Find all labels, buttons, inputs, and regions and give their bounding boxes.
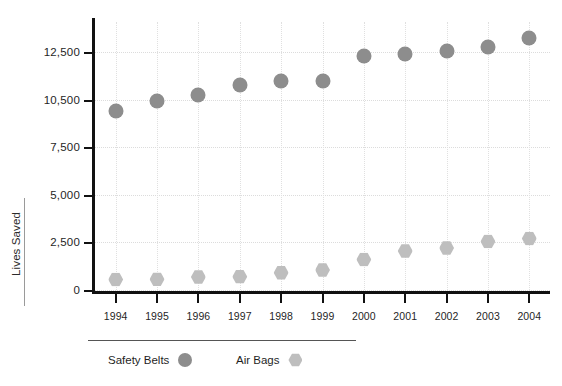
legend-item-label: Air Bags xyxy=(236,354,279,366)
x-axis-tick-labels: 1994199519961997199819992000200120022003… xyxy=(0,310,562,326)
x-axis-tick-mark xyxy=(197,294,199,303)
scatter-chart: Lives Saved 02,5005,0007,50010,50012,500… xyxy=(0,0,562,386)
legend-item[interactable]: Air Bags xyxy=(236,350,302,370)
gridline-vertical xyxy=(488,22,489,290)
data-point xyxy=(108,103,123,118)
gridline-vertical xyxy=(323,22,324,290)
y-axis-tick-label: 2,500 xyxy=(20,236,80,248)
y-axis-line xyxy=(92,18,95,294)
y-axis-tick-label: 10,500 xyxy=(20,94,80,106)
x-axis-tick-mark xyxy=(363,294,365,303)
y-axis-tick-mark xyxy=(84,100,93,102)
y-axis-tick-mark xyxy=(84,290,93,292)
y-axis-tick-mark xyxy=(84,195,93,197)
legend-hexagon-icon xyxy=(288,353,302,367)
x-axis-tick-mark xyxy=(446,294,448,303)
data-point xyxy=(191,270,206,285)
y-axis-tick-mark xyxy=(84,52,93,54)
x-axis-tick-mark xyxy=(528,294,530,303)
y-axis-tick-label: 0 xyxy=(20,284,80,296)
x-axis-tick-mark xyxy=(115,294,117,303)
x-axis-tick-label: 2004 xyxy=(504,310,554,322)
data-point xyxy=(522,231,537,246)
x-axis-tick-mark xyxy=(322,294,324,303)
data-point xyxy=(315,263,330,278)
plot-area xyxy=(95,22,550,290)
data-point xyxy=(480,234,495,249)
chart-legend: Safety BeltsAir Bags xyxy=(88,340,356,374)
x-axis-tick-mark xyxy=(487,294,489,303)
data-point xyxy=(150,94,165,109)
data-point xyxy=(398,243,413,258)
gridline-vertical xyxy=(240,22,241,290)
data-point xyxy=(232,269,247,284)
gridline-vertical xyxy=(198,22,199,290)
gridline-vertical xyxy=(157,22,158,290)
legend-circle-icon xyxy=(178,353,192,367)
data-point xyxy=(439,43,454,58)
gridline-vertical xyxy=(116,22,117,290)
y-axis-tick-label: 12,500 xyxy=(20,46,80,58)
data-point xyxy=(150,272,165,287)
data-point xyxy=(274,73,289,88)
data-point xyxy=(480,40,495,55)
x-axis-tick-mark xyxy=(156,294,158,303)
data-point xyxy=(232,78,247,93)
legend-divider xyxy=(88,340,356,341)
legend-item-label: Safety Belts xyxy=(108,354,169,366)
data-point xyxy=(274,265,289,280)
x-axis-tick-mark xyxy=(239,294,241,303)
data-point xyxy=(108,272,123,287)
gridline-vertical xyxy=(529,22,530,290)
y-axis-tick-label: 7,500 xyxy=(20,141,80,153)
data-point xyxy=(356,252,371,267)
x-axis-tick-mark xyxy=(404,294,406,303)
x-axis-tick-mark xyxy=(280,294,282,303)
y-axis-tick-labels: 02,5005,0007,50010,50012,500 xyxy=(20,0,80,386)
y-axis-tick-label: 5,000 xyxy=(20,189,80,201)
gridline-vertical xyxy=(281,22,282,290)
data-point xyxy=(191,87,206,102)
legend-item[interactable]: Safety Belts xyxy=(108,350,192,370)
data-point xyxy=(398,47,413,62)
y-axis-tick-mark xyxy=(84,147,93,149)
data-point xyxy=(315,73,330,88)
data-point xyxy=(522,30,537,45)
data-point xyxy=(356,48,371,63)
y-axis-tick-mark xyxy=(84,242,93,244)
